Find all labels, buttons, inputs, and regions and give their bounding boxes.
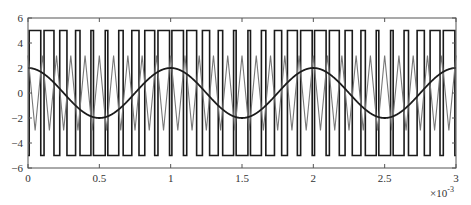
y-tick-label: −6 [11,162,23,174]
x-tick-label: 1.5 [235,172,249,184]
y-tick-label: 6 [18,12,24,24]
plot-area [28,31,456,156]
pwm-chart: 6420−2−4−6 00.511.522.53 ×10-3 [0,0,471,205]
x-tick-label: 2 [311,172,317,184]
x-tick-label: 0 [25,172,31,184]
triangle-series [28,56,456,131]
plot-frame [28,18,456,168]
x-tick-label: 3 [453,172,459,184]
x-tick-label: 0.5 [92,172,106,184]
pwm-series [28,31,456,156]
x-tick-label: 2.5 [378,172,392,184]
sine-series [28,68,456,118]
y-tick-label: −4 [11,137,23,149]
x-multiplier-label: ×10-3 [430,185,454,199]
y-tick-label: −2 [11,112,23,124]
y-tick-label: 4 [18,37,24,49]
y-tick-label: 2 [18,62,24,74]
y-tick-label: 0 [18,87,24,99]
x-tick-label: 1 [168,172,174,184]
